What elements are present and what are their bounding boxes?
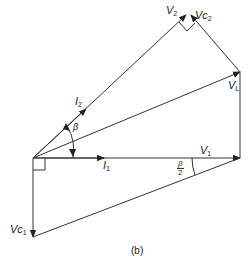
vc2-phasor bbox=[191, 15, 240, 72]
phasor-diagram: V2 Vc2 VL I2 β I1 V1 β 2 Vc1 (b) bbox=[0, 0, 252, 266]
label-vc1: Vc1 bbox=[10, 224, 27, 236]
i2-phasor bbox=[33, 109, 86, 158]
beta-arrow-bottom bbox=[69, 149, 76, 157]
phasor-lines bbox=[0, 0, 252, 266]
right-angle-origin bbox=[33, 158, 45, 170]
label-beta: β bbox=[73, 123, 78, 132]
label-v2: V2 bbox=[166, 5, 177, 17]
label-vc2: Vc2 bbox=[195, 10, 212, 22]
closing-side bbox=[33, 158, 240, 237]
right-angle-top bbox=[179, 22, 195, 31]
label-beta-half: β 2 bbox=[177, 160, 184, 177]
label-i1: I1 bbox=[103, 160, 110, 172]
label-i2: I2 bbox=[75, 96, 82, 108]
label-v1: V1 bbox=[200, 145, 211, 157]
beta-half-arc bbox=[192, 158, 195, 175]
label-vl: VL bbox=[228, 80, 239, 92]
figure-caption: (b) bbox=[131, 245, 143, 256]
